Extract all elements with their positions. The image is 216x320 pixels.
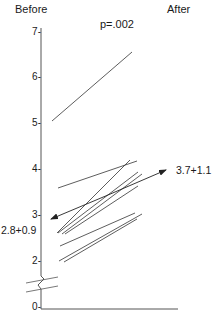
axis-break-icon <box>38 276 44 289</box>
subject-line <box>58 172 138 233</box>
mean-before-arrow <box>51 195 108 219</box>
subject-line <box>59 214 142 261</box>
subject-line <box>52 52 132 121</box>
subject-line <box>64 219 137 262</box>
subject-line <box>62 174 142 234</box>
plot-area <box>0 0 216 320</box>
subject-lines <box>52 52 142 262</box>
subject-line <box>65 186 138 234</box>
subject-line <box>57 160 130 233</box>
